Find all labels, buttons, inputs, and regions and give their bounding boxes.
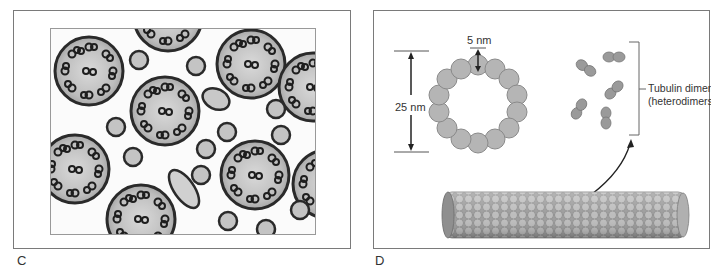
tubulin-dimers [569, 52, 625, 129]
panel-c-frame [13, 10, 351, 249]
panel-c-label: C [17, 253, 26, 268]
subunit-label: 5 nm [467, 34, 491, 46]
assembly-arrow [592, 139, 634, 194]
panel-d-label: D [375, 253, 384, 268]
dimers-label-line1: Tubulin dimers [648, 82, 711, 94]
dimers-label-line2: (heterodimers) [648, 95, 711, 107]
panel-d-frame: 25 nm 5 nm [373, 10, 710, 249]
axoneme-micrograph [50, 28, 316, 235]
microtubule-diagram: 25 nm 5 nm [374, 11, 711, 250]
dimers-bracket [629, 42, 646, 135]
micrograph-image [51, 29, 315, 234]
microtubule-cylinder [442, 192, 689, 238]
diameter-label: 25 nm [395, 101, 426, 113]
